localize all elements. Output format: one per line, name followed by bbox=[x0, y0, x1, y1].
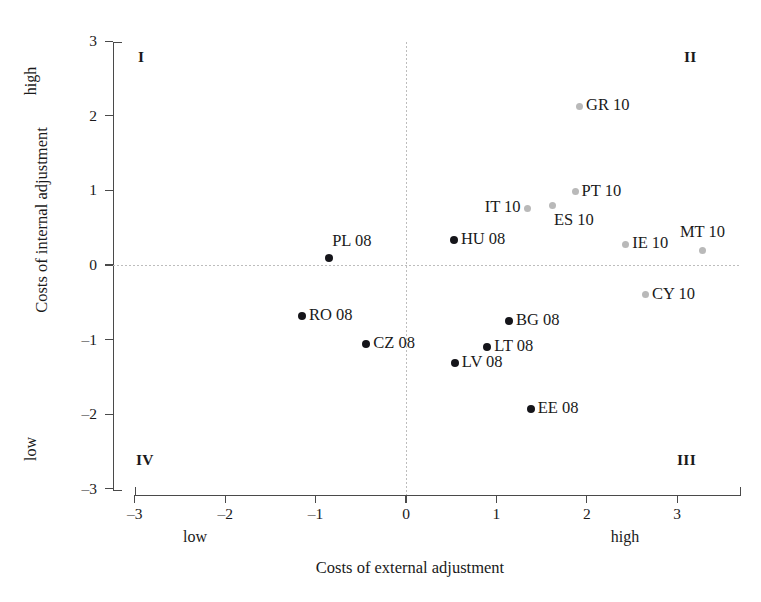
y-axis-high-annotation: high bbox=[22, 46, 40, 116]
y-tick-label: 1 bbox=[75, 182, 97, 198]
y-tick bbox=[105, 488, 113, 489]
data-point[interactable] bbox=[362, 340, 370, 348]
origin-vertical-gridline bbox=[406, 42, 407, 495]
data-point[interactable] bbox=[699, 247, 706, 254]
y-tick-label: 3 bbox=[75, 33, 97, 49]
data-point-label: LV 08 bbox=[462, 354, 503, 371]
quadrant-label-ii: II bbox=[684, 48, 697, 66]
y-tick-label: 2 bbox=[75, 108, 97, 124]
x-tick bbox=[586, 495, 587, 503]
data-point[interactable] bbox=[622, 241, 629, 248]
data-point-label: CY 10 bbox=[652, 286, 695, 303]
y-tick bbox=[105, 414, 113, 415]
data-point[interactable] bbox=[483, 343, 491, 351]
x-axis-line bbox=[135, 495, 741, 496]
x-tick bbox=[405, 495, 406, 503]
x-axis-right-stub bbox=[740, 487, 741, 496]
y-axis-line bbox=[113, 42, 114, 491]
x-tick-label: 0 bbox=[391, 506, 421, 522]
origin-horizontal-gridline bbox=[113, 265, 741, 266]
y-axis-bottom-stub bbox=[113, 490, 122, 491]
x-tick bbox=[496, 495, 497, 503]
scatter-plot: 3210–1–2–3–3–2–10123 Costs of internal a… bbox=[0, 0, 761, 602]
x-tick-label: 2 bbox=[572, 506, 602, 522]
x-tick bbox=[315, 495, 316, 503]
quadrant-label-iv: IV bbox=[136, 451, 154, 469]
data-point-label: CZ 08 bbox=[373, 335, 415, 352]
y-tick-label: 0 bbox=[75, 257, 97, 273]
x-tick bbox=[134, 495, 135, 503]
y-axis-title: Costs of internal adjustment bbox=[32, 90, 52, 350]
data-point[interactable] bbox=[642, 291, 649, 298]
data-point[interactable] bbox=[524, 205, 531, 212]
data-point[interactable] bbox=[451, 359, 459, 367]
x-tick-label: 3 bbox=[662, 506, 692, 522]
data-point[interactable] bbox=[298, 312, 306, 320]
y-tick-label: –2 bbox=[75, 406, 97, 422]
x-axis-title: Costs of external adjustment bbox=[220, 558, 600, 578]
y-tick bbox=[105, 264, 113, 265]
x-axis-low-annotation: low bbox=[160, 528, 230, 546]
data-point[interactable] bbox=[572, 188, 579, 195]
data-point-label: PT 10 bbox=[582, 183, 622, 200]
data-point[interactable] bbox=[549, 202, 556, 209]
data-point-label: PL 08 bbox=[332, 233, 371, 250]
data-point[interactable] bbox=[505, 317, 513, 325]
data-point-label: HU 08 bbox=[461, 231, 505, 248]
y-tick bbox=[105, 190, 113, 191]
data-point-label: RO 08 bbox=[309, 307, 353, 324]
data-point-label: BG 08 bbox=[516, 312, 560, 329]
x-tick-label: 1 bbox=[481, 506, 511, 522]
x-tick-label: –1 bbox=[301, 506, 331, 522]
data-point[interactable] bbox=[576, 103, 583, 110]
y-tick bbox=[105, 41, 113, 42]
x-tick-label: –2 bbox=[210, 506, 240, 522]
x-tick bbox=[677, 495, 678, 503]
y-tick bbox=[105, 115, 113, 116]
y-tick bbox=[105, 339, 113, 340]
data-point-label: MT 10 bbox=[680, 224, 725, 241]
x-tick-label: –3 bbox=[120, 506, 150, 522]
quadrant-label-i: I bbox=[138, 48, 144, 66]
quadrant-label-iii: III bbox=[677, 451, 696, 469]
data-point[interactable] bbox=[527, 405, 535, 413]
data-point-label: GR 10 bbox=[586, 97, 630, 114]
data-point-label: ES 10 bbox=[554, 212, 594, 229]
y-tick-label: –1 bbox=[75, 332, 97, 348]
y-tick-label: –3 bbox=[75, 481, 97, 497]
x-axis-high-annotation: high bbox=[590, 528, 660, 546]
x-tick bbox=[225, 495, 226, 503]
y-axis-top-stub bbox=[113, 42, 122, 43]
data-point[interactable] bbox=[325, 254, 333, 262]
data-point-label: EE 08 bbox=[538, 400, 579, 417]
y-axis-low-annotation: low bbox=[22, 414, 40, 484]
data-point-label: IE 10 bbox=[632, 235, 668, 252]
data-point[interactable] bbox=[450, 236, 458, 244]
data-point-label: IT 10 bbox=[485, 199, 521, 216]
